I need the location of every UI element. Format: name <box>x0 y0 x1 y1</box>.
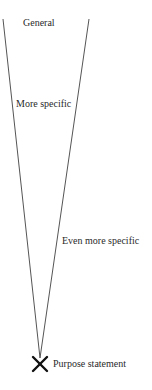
level-label-general: General <box>23 17 55 29</box>
purpose-statement-label: Purpose statement <box>53 358 126 370</box>
funnel-diagram: General More specific Even more specific… <box>0 0 152 390</box>
funnel-lines <box>0 0 152 390</box>
level-label-more-specific: More specific <box>16 98 71 110</box>
x-mark-icon <box>33 357 47 371</box>
funnel-left-edge <box>3 19 40 358</box>
level-label-even-more-specific: Even more specific <box>62 235 139 247</box>
funnel-right-edge <box>40 19 89 358</box>
